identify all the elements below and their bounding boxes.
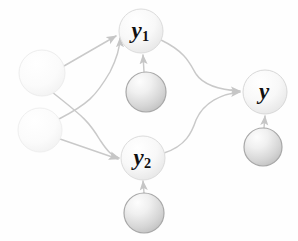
exogenous-node-2 (18, 108, 62, 152)
disturbance-node-e2 (124, 193, 164, 233)
disturbance-node-e1 (126, 72, 166, 112)
outcome-node-y (243, 70, 287, 114)
diagram-svg (0, 0, 298, 241)
edge-x1-to-y1 (64, 36, 116, 66)
mediator-node-y1 (119, 9, 163, 53)
mediator-node-y2 (121, 136, 165, 180)
edge-y2-to-y (164, 92, 240, 153)
node-layer (18, 9, 287, 233)
edge-y1-to-y (161, 40, 240, 91)
edge-e2-to-y2 (143, 181, 144, 193)
exogenous-node-1 (19, 50, 65, 96)
path-diagram-canvas: y1y2y (0, 0, 298, 241)
disturbance-node-e3 (244, 128, 282, 166)
edge-x2-to-y2 (60, 139, 118, 159)
edge-x2-to-y1 (59, 38, 120, 119)
edge-e1-to-y1 (143, 55, 144, 72)
edge-e3-to-y (264, 116, 265, 128)
